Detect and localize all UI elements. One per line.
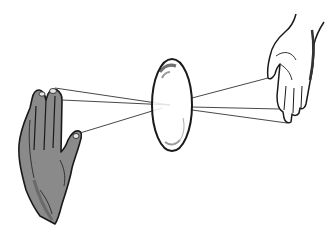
- illustration-canvas: [0, 0, 333, 237]
- lens: [152, 59, 192, 151]
